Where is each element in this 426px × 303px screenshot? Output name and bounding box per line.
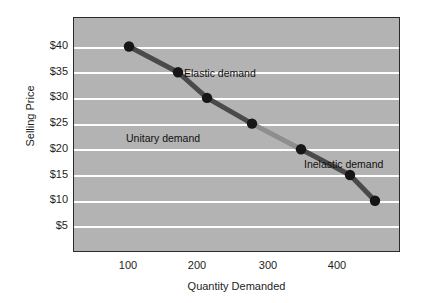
x-axis-tick-labels: 100 200 300 400: [73, 260, 400, 276]
x-tick-200: 200: [188, 260, 206, 271]
x-tick-400: 400: [328, 260, 346, 271]
y-tick-20: $20: [50, 143, 68, 154]
gridline-20: [74, 149, 399, 151]
demand-curve-chart: Elastic demand Unitary demand Inelastic …: [0, 0, 426, 303]
y-tick-35: $35: [50, 66, 68, 77]
x-axis-title: Quantity Demanded: [73, 280, 400, 292]
y-axis-title: Selling Price: [24, 56, 36, 176]
gridline-25: [74, 124, 399, 126]
plot-area: Elastic demand Unitary demand Inelastic …: [73, 17, 400, 252]
y-tick-10: $10: [50, 194, 68, 205]
y-tick-40: $40: [50, 40, 68, 51]
annotation-unitary-demand: Unitary demand: [126, 132, 200, 144]
annotation-elastic-demand: Elastic demand: [184, 67, 256, 79]
gridline-40: [74, 47, 399, 49]
y-tick-25: $25: [50, 117, 68, 128]
gridline-15: [74, 175, 399, 177]
gridline-5: [74, 226, 399, 228]
x-tick-100: 100: [119, 260, 137, 271]
y-tick-5: $5: [56, 220, 68, 231]
annotation-inelastic-demand: Inelastic demand: [304, 158, 383, 170]
demand-curve-series: [74, 18, 400, 252]
demand-line-elastic: [129, 47, 252, 124]
x-tick-300: 300: [259, 260, 277, 271]
gridline-30: [74, 98, 399, 100]
y-tick-15: $15: [50, 169, 68, 180]
demand-line-unitary: [252, 124, 301, 150]
y-tick-30: $30: [50, 91, 68, 102]
gridline-10: [74, 201, 399, 203]
